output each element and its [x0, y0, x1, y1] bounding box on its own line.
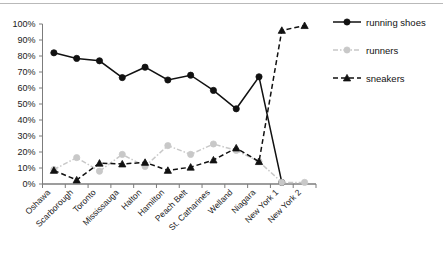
series-layer — [50, 22, 308, 185]
y-axis-tick-label: 30% — [17, 131, 35, 141]
data-point-marker — [165, 77, 171, 83]
data-point-marker — [51, 50, 57, 56]
y-axis-tick-label: 100% — [12, 19, 35, 29]
data-point-marker — [210, 141, 216, 147]
data-point-marker — [344, 19, 350, 25]
legend-item-sneakers[interactable]: sneakers — [333, 73, 405, 84]
y-axis-tick-label: 70% — [17, 67, 35, 77]
data-point-marker — [165, 143, 171, 149]
series-line — [54, 26, 305, 180]
data-point-marker — [301, 22, 308, 29]
data-point-marker — [279, 179, 285, 185]
legend-label: runners — [366, 45, 398, 56]
data-point-marker — [96, 160, 103, 167]
data-point-marker — [188, 151, 194, 157]
data-point-marker — [278, 27, 285, 34]
legend-label: sneakers — [366, 73, 405, 84]
chart-container: 0%10%20%30%40%50%60%70%80%90%100% Oshawa… — [0, 0, 443, 254]
data-point-marker — [233, 106, 239, 112]
data-point-marker — [302, 179, 308, 185]
y-axis-tick-label: 90% — [17, 35, 35, 45]
data-point-marker — [96, 168, 102, 174]
data-point-marker — [344, 47, 350, 53]
series-line — [54, 53, 282, 183]
legend-label: running shoes — [366, 17, 426, 28]
series-sneakers — [50, 22, 308, 183]
y-axis-tick-label: 10% — [17, 163, 35, 173]
y-axis-tick-label: 20% — [17, 147, 35, 157]
data-point-marker — [74, 155, 80, 161]
y-axis-tick-labels: 0%10%20%30%40%50%60%70%80%90%100% — [12, 19, 35, 189]
data-point-marker — [74, 55, 80, 61]
x-axis-tick-labels: OshawaScarboroughTorontoMississaugaHalto… — [23, 187, 303, 233]
series-runners — [51, 141, 308, 186]
y-axis-tick-label: 80% — [17, 51, 35, 61]
x-axis-tick-label: Welland — [206, 187, 235, 216]
data-point-marker — [119, 75, 125, 81]
y-axis-tick-label: 60% — [17, 83, 35, 93]
chart-legend: running shoesrunnerssneakers — [333, 17, 426, 84]
series-line — [54, 144, 305, 182]
data-point-marker — [210, 87, 216, 93]
y-axis-tick-marks — [39, 24, 43, 184]
y-axis-tick-label: 40% — [17, 115, 35, 125]
data-point-marker — [119, 151, 125, 157]
data-point-marker — [96, 58, 102, 64]
data-point-marker — [256, 74, 262, 80]
y-axis-tick-label: 50% — [17, 99, 35, 109]
data-point-marker — [210, 156, 217, 163]
line-chart-plot: 0%10%20%30%40%50%60%70%80%90%100% Oshawa… — [0, 0, 443, 254]
data-point-marker — [142, 64, 148, 70]
legend-item-running-shoes[interactable]: running shoes — [333, 17, 426, 28]
legend-item-runners[interactable]: runners — [333, 45, 398, 56]
data-point-marker — [233, 144, 240, 151]
y-axis-tick-label: 0% — [22, 179, 35, 189]
data-point-marker — [188, 72, 194, 78]
series-running-shoes — [51, 50, 285, 186]
